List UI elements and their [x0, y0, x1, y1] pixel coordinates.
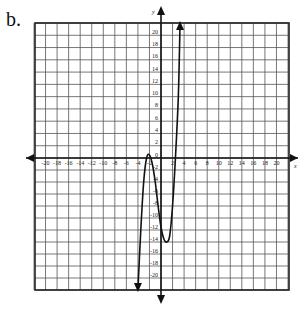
y-tick-label: 8 — [155, 102, 158, 108]
y-tick-label: 20 — [152, 29, 158, 35]
y-tick-label: 4 — [155, 127, 158, 133]
function-curve — [138, 23, 180, 290]
x-tick-label: 16 — [250, 160, 256, 166]
x-tick-label: 2 — [171, 160, 174, 166]
y-tick-label: -18 — [150, 260, 158, 266]
x-tick-label: -16 — [65, 160, 73, 166]
y-tick-label: 6 — [155, 115, 158, 121]
x-axis-right-arrow-icon — [290, 154, 298, 162]
x-axis-label: x — [293, 163, 297, 169]
y-axis-label: y — [151, 9, 155, 15]
x-tick-label: 4 — [183, 160, 186, 166]
cubic-graph: xy-20-18-16-14-12-10-8-6-4-2246810121416… — [0, 0, 306, 311]
x-tick-label: 12 — [227, 160, 233, 166]
x-tick-label: 10 — [216, 160, 222, 166]
y-tick-label: 14 — [152, 66, 158, 72]
x-tick-label: -20 — [42, 160, 50, 166]
y-tick-label: -20 — [150, 272, 158, 278]
x-tick-label: -12 — [88, 160, 96, 166]
x-tick-label: -6 — [124, 160, 129, 166]
y-tick-label: 2 — [155, 139, 158, 145]
y-axis-top-arrow-icon — [157, 6, 165, 15]
x-tick-label: -10 — [99, 160, 107, 166]
y-tick-label: 16 — [152, 53, 158, 59]
grid-border — [35, 23, 289, 290]
y-tick-label: -14 — [150, 236, 158, 242]
x-tick-label: -14 — [76, 160, 84, 166]
y-tick-label: -12 — [150, 224, 158, 230]
y-tick-label: -10 — [150, 212, 158, 218]
x-tick-label: 6 — [194, 160, 197, 166]
x-tick-label: 14 — [239, 160, 245, 166]
x-tick-label: -8 — [112, 160, 117, 166]
y-tick-label: 0 — [155, 152, 158, 158]
y-tick-label: -16 — [150, 248, 158, 254]
y-tick-label: 10 — [152, 90, 158, 96]
y-axis-bottom-arrow-icon — [157, 295, 165, 304]
x-tick-label: 8 — [206, 160, 209, 166]
y-tick-label: 12 — [152, 78, 158, 84]
x-tick-label: -18 — [53, 160, 61, 166]
y-tick-label: 18 — [152, 41, 158, 47]
x-tick-label: 18 — [262, 160, 268, 166]
x-tick-label: -4 — [135, 160, 140, 166]
x-tick-label: 20 — [273, 160, 279, 166]
x-axis-left-arrow-icon — [26, 154, 34, 162]
